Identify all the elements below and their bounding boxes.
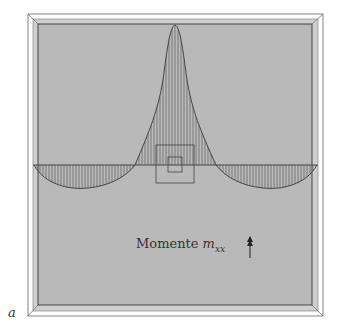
- figure-label: a: [8, 305, 16, 320]
- title-subscript: xx: [215, 244, 225, 254]
- title-symbol: m: [203, 236, 215, 251]
- moment-diagram: [0, 0, 341, 331]
- title-text: Momente: [136, 236, 198, 251]
- diagram-title: Momente mxx: [136, 236, 225, 254]
